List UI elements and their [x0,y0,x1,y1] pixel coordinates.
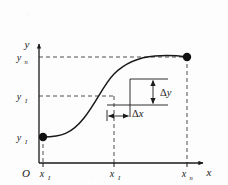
x-tick-label-xI: x I [39,168,51,181]
y-tick-yn-sub: n [24,58,27,65]
x-tick-xn-sub: n [189,174,192,181]
end-point-marker [183,53,191,61]
start-point-marker [39,133,47,141]
y-tick-yI-low-base: y [16,132,22,143]
curve-diagram: y x O y n y I y I x I x I [0,0,228,185]
y-tick-yI-mid-base: y [16,91,22,102]
x-tick-xn-base: x [181,168,187,179]
y-tick-label-yI-mid: y I [16,91,28,104]
origin-label: O [22,167,30,179]
svg-text:Δx: Δx [132,108,144,119]
delta-x-label: Δx [132,108,144,119]
y-tick-yI-low-sub: I [24,138,28,145]
y-tick-label-yI-low: y I [16,132,28,145]
x-tick-xI-mid-sub: I [117,174,121,181]
y-tick-yI-mid-sub: I [24,97,28,104]
y-axis-label: y [24,38,30,50]
x-tick-xI-mid-base: x [109,168,115,179]
x-tick-xI-base: x [39,168,45,179]
y-tick-label-yn: y n [16,52,28,65]
svg-text:Δy: Δy [160,87,172,98]
x-tick-label-xI-mid: x I [109,168,121,181]
delta-y-label: Δy [160,87,172,98]
x-tick-label-xn: x n [181,168,193,181]
y-tick-yn-base: y [16,52,22,63]
x-axis-label: x [206,166,212,178]
x-tick-xI-sub: I [47,174,51,181]
guide-lines [39,57,187,163]
delta-x-variable: x [138,108,144,119]
delta-y-variable: y [166,87,172,98]
figure-container: y x O y n y I y I x I x I [0,0,228,185]
